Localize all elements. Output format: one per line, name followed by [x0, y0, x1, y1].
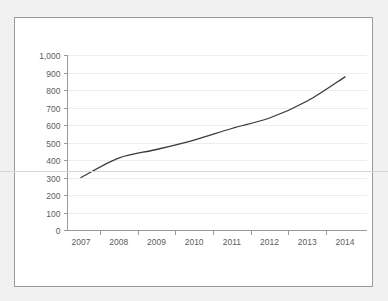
- x-tick-label: 2013: [298, 237, 317, 247]
- y-tick-label: 400: [46, 156, 60, 166]
- gridlines: [67, 56, 367, 231]
- y-axis: [64, 55, 68, 231]
- y-tick-label: 900: [46, 69, 60, 79]
- x-tick-label: 2014: [336, 237, 355, 247]
- y-tick-label: 200: [46, 191, 60, 201]
- x-tick-label: 2007: [72, 237, 91, 247]
- x-tick-label: 2010: [185, 237, 204, 247]
- y-tick-label: 700: [46, 104, 60, 114]
- y-tick-labels: 01002003004005006007008009001,000: [39, 51, 61, 236]
- x-tick-label: 2009: [147, 237, 166, 247]
- y-tick-label: 300: [46, 174, 60, 184]
- x-tick-labels: 20072008200920102011201220132014: [72, 237, 355, 247]
- y-tick-label: 0: [56, 226, 61, 236]
- chart-panel: 01002003004005006007008009001,000 200720…: [14, 17, 373, 287]
- y-tick-label: 100: [46, 209, 60, 219]
- page-horizontal-rule: [0, 171, 388, 172]
- y-tick-label: 500: [46, 139, 60, 149]
- x-tick-label: 2011: [223, 237, 242, 247]
- y-tick-label: 800: [46, 86, 60, 96]
- y-tick-label: 600: [46, 121, 60, 131]
- x-tick-label: 2012: [260, 237, 279, 247]
- x-axis: [67, 231, 367, 235]
- data-series-line: [81, 77, 345, 178]
- x-tick-label: 2008: [109, 237, 128, 247]
- line-chart: 01002003004005006007008009001,000 200720…: [15, 18, 372, 286]
- y-tick-label: 1,000: [39, 51, 61, 61]
- chart-screenshot: 01002003004005006007008009001,000 200720…: [0, 0, 388, 301]
